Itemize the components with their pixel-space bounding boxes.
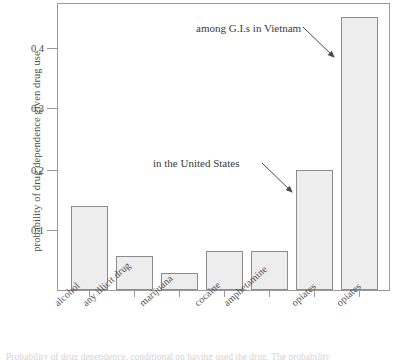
y-tick-label-0.1: 0.1 (31, 225, 44, 236)
bar-alcohol (71, 206, 108, 290)
y-tick-label-0.4: 0.4 (31, 43, 44, 54)
x-tick-mark-amphetamine (269, 291, 270, 297)
y-axis-title: probability of drug dependence given dru… (31, 22, 42, 282)
bar-opiates-vietnam (341, 17, 378, 290)
bar-chart-figure: probability of drug dependence given dru… (0, 0, 396, 360)
annotation-united-states: in the United States (153, 157, 239, 169)
y-tick-mark-0.2 (47, 170, 57, 171)
bar-opiates-us (296, 170, 333, 290)
clipped-caption: Probability of drug dependence, conditio… (6, 351, 390, 360)
x-tick-mark-any-illicit-drug (134, 291, 135, 297)
y-tick-mark-0.1 (47, 230, 57, 231)
y-tick-mark-0.3 (47, 108, 57, 109)
y-tick-mark-0.4 (47, 48, 57, 49)
y-tick-label-0.3: 0.3 (31, 103, 44, 114)
x-tick-mark-marijuana (179, 291, 180, 297)
y-tick-label-0.2: 0.2 (31, 165, 44, 176)
annotation-vietnam: among G.I.s in Vietnam (196, 22, 301, 34)
